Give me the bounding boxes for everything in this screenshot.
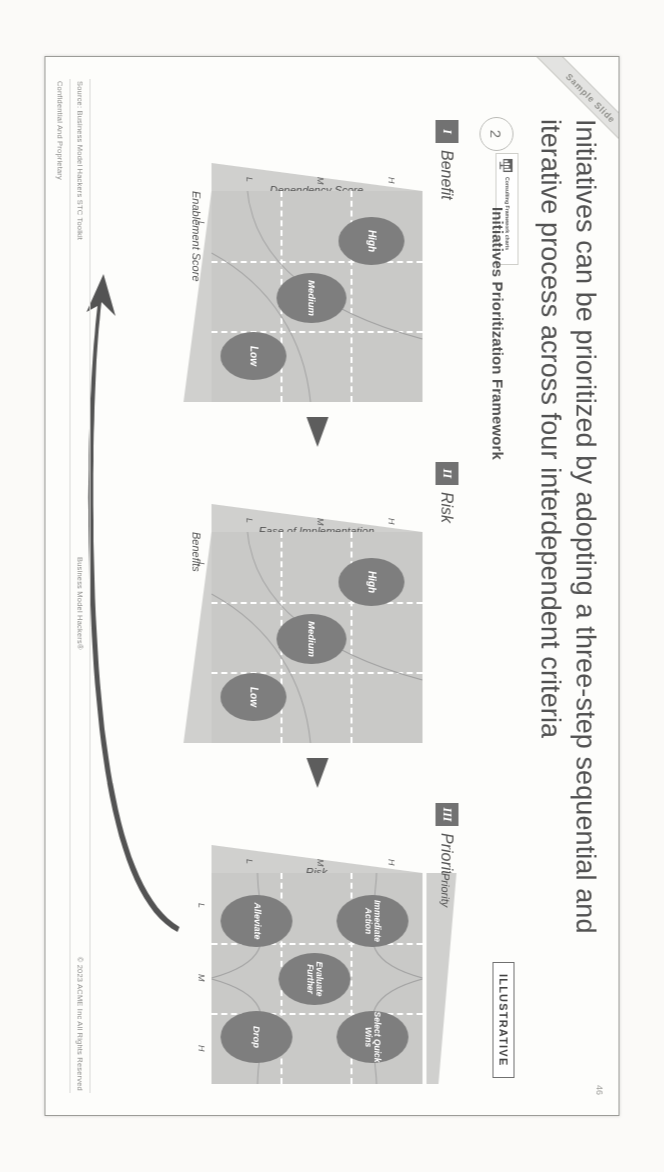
x-axis-label-chart2: Benefits — [191, 532, 203, 743]
step-header-risk: II Risk — [436, 462, 459, 523]
step-badge-iii: III — [436, 803, 459, 826]
axis-wedge-risk: Risk — [212, 839, 423, 873]
bubble-point: Drop — [221, 1011, 293, 1063]
bubble-point: High — [339, 217, 405, 265]
axis-wedge-ease-of-implementation: Ease of Implementation — [212, 498, 423, 532]
y-tick: M — [316, 177, 326, 185]
x-axis-label-chart3: Priority — [440, 873, 452, 1084]
presentation-slide: Sample Slide 46 Initiatives can be prior… — [45, 56, 620, 1116]
y-tick: M — [316, 518, 326, 526]
illustrative-badge: ILLUSTRATIVE — [493, 962, 515, 1078]
step-circle-number: 2 — [480, 117, 514, 151]
gridline-v — [212, 261, 423, 265]
bubble-point: Evaluate Further — [279, 953, 351, 1005]
step-header-benefit: I Benefit — [436, 120, 459, 200]
page-number: 46 — [595, 1085, 605, 1095]
footer-confidential: Confidential And Proprietary — [56, 81, 65, 180]
step-header-priority: III Priority — [436, 803, 459, 883]
x-tick: L — [197, 903, 207, 908]
axis-wedge-benefits: Benefits — [178, 532, 212, 743]
footer-divider-bottom — [70, 79, 71, 1093]
flow-chevron-2 — [307, 758, 329, 788]
footer-brand: Business Model Hackers® — [76, 557, 85, 650]
step-badge-i: I — [436, 120, 459, 143]
gridline-v — [212, 602, 423, 606]
scanned-slide-photo: Sample Slide 46 Initiatives can be prior… — [0, 0, 664, 1172]
y-tick: L — [245, 518, 255, 523]
bubble-point: Alleviate — [221, 895, 293, 947]
matrix-benefit: High Medium Low — [212, 191, 423, 402]
iteration-return-arrow — [87, 272, 182, 932]
y-tick: H — [387, 518, 397, 525]
x-axis-label-chart1: Enablement Score — [191, 191, 203, 402]
x-tick: M — [197, 974, 207, 982]
bubble-point: Medium — [277, 273, 347, 323]
presentation-chart-icon — [500, 158, 514, 173]
footer-source: Source: Business Model Hackers STC Toolk… — [76, 81, 85, 240]
x-tick: H — [197, 1045, 207, 1052]
axis-wedge-enablement-score: Enablement Score — [178, 191, 212, 402]
page-title: Initiatives can be prioritized by adopti… — [532, 119, 602, 1019]
flow-chevron-1 — [307, 417, 329, 447]
y-tick: H — [387, 177, 397, 184]
bubble-point: Select Quick Wins — [337, 1011, 409, 1063]
axis-wedge-dependency-score: Dependency Score — [212, 157, 423, 191]
step-name-risk: Risk — [438, 492, 456, 523]
page-subtitle: Initiatives Prioritization Framework — [490, 207, 507, 460]
axis-wedge-priority: Priority — [427, 873, 461, 1084]
y-tick: L — [245, 177, 255, 182]
bubble-point: Immediate Action — [337, 895, 409, 947]
bubble-point: Low — [221, 332, 287, 380]
bubble-point: Low — [221, 673, 287, 721]
step-name-benefit: Benefit — [438, 150, 456, 200]
footer-copyright: © 2023 ACME Inc All Rights Reserved — [76, 957, 85, 1091]
y-tick: H — [387, 859, 397, 866]
bubble-point: High — [339, 558, 405, 606]
y-tick: M — [316, 859, 326, 867]
y-tick: L — [245, 859, 255, 864]
bubble-point: Medium — [277, 614, 347, 664]
step-badge-ii: II — [436, 462, 459, 485]
matrix-risk: High Medium Low — [212, 532, 423, 743]
footer-divider-top — [90, 79, 91, 1093]
matrix-priority: Immediate Action Alleviate Evaluate Furt… — [212, 873, 423, 1084]
